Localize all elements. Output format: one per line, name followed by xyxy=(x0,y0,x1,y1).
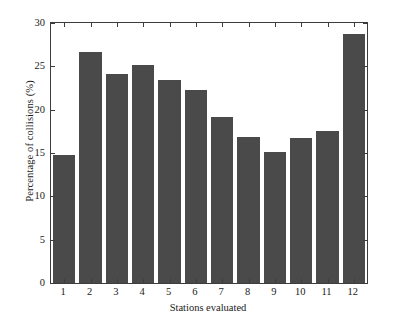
x-axis-tick xyxy=(354,279,355,284)
y-axis-title: Percentage of collisions (%) xyxy=(22,0,38,282)
bar xyxy=(185,90,208,283)
bar xyxy=(290,138,313,283)
x-axis-title: Stations evaluated xyxy=(50,302,366,313)
y-axis-tick xyxy=(50,283,55,284)
y-axis-tick-right xyxy=(363,110,368,111)
plot-area xyxy=(50,22,368,284)
x-axis-tick xyxy=(275,279,276,284)
bar xyxy=(132,65,155,283)
y-axis-tick-right xyxy=(363,23,368,24)
x-axis-tick-top xyxy=(64,22,65,27)
x-axis-tick-labels: 123456789101112 xyxy=(50,286,366,302)
y-axis-tick xyxy=(50,110,55,111)
bar xyxy=(343,34,366,283)
x-axis-tick xyxy=(222,279,223,284)
x-axis-tick-top xyxy=(249,22,250,27)
x-axis-tick xyxy=(301,279,302,284)
x-axis-tick-top xyxy=(301,22,302,27)
x-axis-tick-top xyxy=(117,22,118,27)
bar xyxy=(211,117,234,283)
bar xyxy=(53,155,76,283)
x-axis-tick xyxy=(143,279,144,284)
y-axis-tick-right xyxy=(363,240,368,241)
x-axis-tick-top xyxy=(196,22,197,27)
bar xyxy=(316,131,339,283)
y-axis-tick xyxy=(50,196,55,197)
x-axis-tick-top xyxy=(275,22,276,27)
bar xyxy=(158,80,181,283)
x-axis-tick xyxy=(117,279,118,284)
bar-chart-figure: Percentage of collisions (%) 05101520253… xyxy=(0,0,394,325)
bar-series xyxy=(51,23,367,283)
y-axis-tick-right xyxy=(363,283,368,284)
x-axis-tick xyxy=(170,279,171,284)
x-axis-tick xyxy=(249,279,250,284)
x-tick-label: 12 xyxy=(338,286,368,297)
x-axis-tick-top xyxy=(328,22,329,27)
y-axis-tick-right xyxy=(363,66,368,67)
x-axis-tick-top xyxy=(91,22,92,27)
x-axis-tick xyxy=(196,279,197,284)
y-axis-tick-right xyxy=(363,196,368,197)
y-axis-tick xyxy=(50,23,55,24)
y-axis-tick-right xyxy=(363,153,368,154)
bar xyxy=(106,74,129,283)
y-axis-tick xyxy=(50,240,55,241)
y-axis-tick xyxy=(50,66,55,67)
bar xyxy=(264,152,287,283)
bar xyxy=(237,137,260,283)
y-axis-tick xyxy=(50,153,55,154)
x-axis-tick-top xyxy=(170,22,171,27)
x-axis-tick-top xyxy=(143,22,144,27)
x-axis-tick xyxy=(64,279,65,284)
x-axis-tick-top xyxy=(354,22,355,27)
bar xyxy=(79,52,102,283)
x-axis-tick xyxy=(328,279,329,284)
x-axis-tick-top xyxy=(222,22,223,27)
x-axis-tick xyxy=(91,279,92,284)
